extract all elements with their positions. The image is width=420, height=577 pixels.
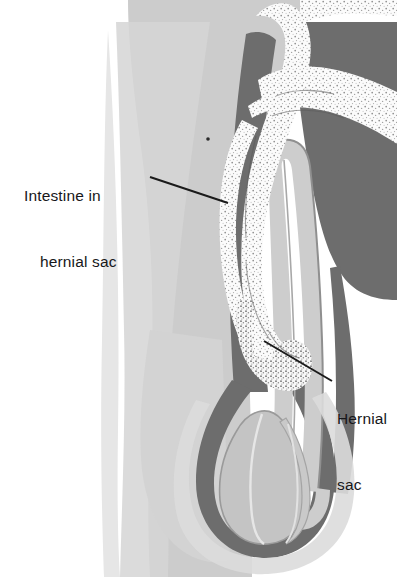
intestine-upper-right-stub — [300, 0, 397, 24]
label-intestine-line1: Intestine in — [24, 185, 117, 207]
label-hernial-sac-line2: sac — [337, 474, 387, 496]
hernia-illustration-figure: Intestine in hernial sac Hernial sac — [0, 0, 420, 577]
label-hernial-sac-line1: Hernial — [337, 408, 387, 430]
wall-marker-dot — [206, 137, 210, 141]
label-hernial-sac: Hernial sac — [337, 364, 387, 540]
label-intestine-line2: hernial sac — [24, 251, 117, 273]
label-intestine-in-hernial-sac: Intestine in hernial sac — [24, 141, 117, 317]
